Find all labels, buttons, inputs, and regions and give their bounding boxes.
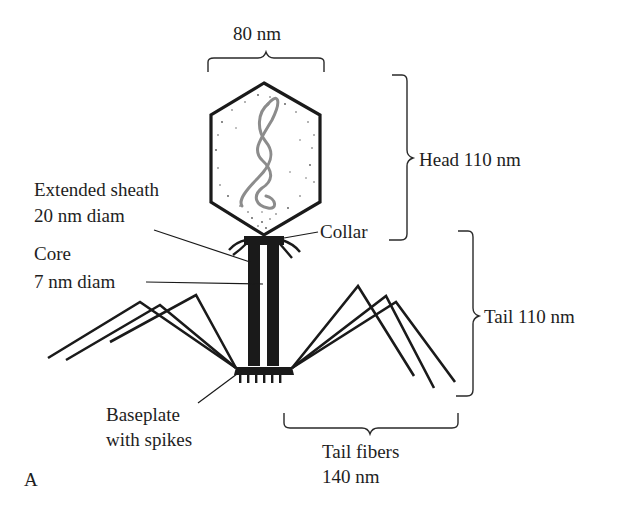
collar-label: Collar [320,221,368,242]
head-width-brace [208,52,324,72]
fibers-label-line2: 140 nm [322,466,380,487]
baseplate-label-line1: Baseplate [106,404,180,425]
phage-head [211,83,320,235]
tail-fibers-right [292,286,455,388]
head-width-label: 80 nm [233,23,281,44]
baseplate-leader [198,374,237,403]
head-length-label: Head 110 nm [419,149,521,170]
collar [229,236,300,258]
core-label-line2: 7 nm diam [34,271,115,292]
sheath-label-line1: Extended sheath [34,179,160,200]
tail-sheath [248,244,279,366]
tail-length-label: Tail 110 nm [484,306,575,327]
tail-fibers-brace [284,413,458,434]
phage-diagram: 80 nm Head 110 nm Collar [0,0,632,517]
fibers-label-line1: Tail fibers [322,441,399,462]
core-leader [146,282,263,284]
head-length-brace [389,75,413,240]
tail-length-brace [456,231,479,396]
sheath-leader [154,230,250,262]
core-label-line1: Core [34,243,71,264]
baseplate [234,367,294,383]
tail-fibers-left [48,295,236,368]
sheath-label-line2: 20 nm diam [34,205,125,226]
collar-leader [284,232,318,238]
panel-letter: A [24,469,38,490]
baseplate-label-line2: with spikes [106,429,192,450]
